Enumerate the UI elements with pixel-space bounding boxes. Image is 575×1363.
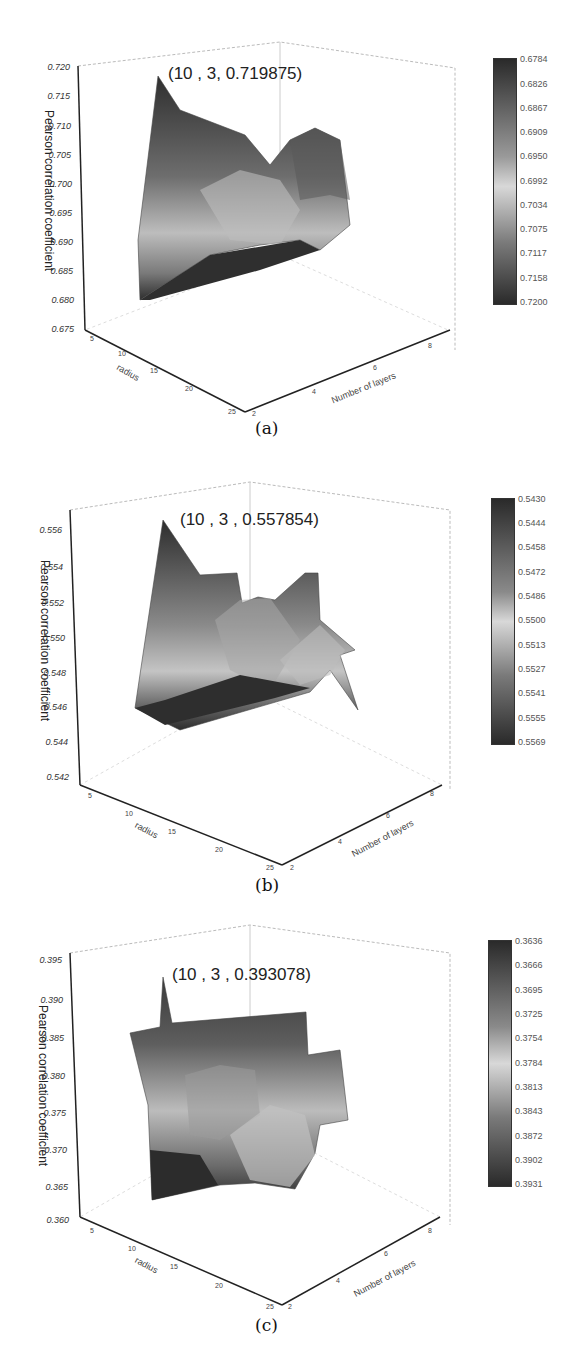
colorbar-tick: 0.3902 [515, 1155, 543, 1165]
colorbar-tick: 0.3813 [515, 1082, 543, 1092]
x-tick: 20 [215, 846, 223, 853]
z-tick: 0.380 [25, 1071, 65, 1081]
x-tick: 25 [228, 408, 236, 415]
colorbar-tick: 0.5541 [518, 688, 546, 698]
colorbar-tick: 0.7075 [520, 224, 548, 234]
colorbar-tick: 0.6992 [520, 176, 548, 186]
z-tick: 0.550 [25, 633, 65, 643]
colorbar-a [493, 58, 517, 305]
z-tick: 0.365 [28, 1182, 68, 1192]
panel-caption-b: (b) [255, 875, 279, 895]
x-tick: 5 [88, 792, 92, 799]
panel-caption-c: (c) [255, 1315, 278, 1335]
colorbar-tick: 0.6867 [520, 103, 548, 113]
colorbar-tick: 0.5569 [518, 737, 546, 747]
colorbar-tick: 0.7200 [520, 297, 548, 307]
z-tick: 0.710 [31, 121, 71, 131]
z-tick: 0.680 [34, 295, 74, 305]
x-tick: 10 [118, 350, 126, 357]
colorbar-tick: 0.3784 [515, 1058, 543, 1068]
y-tick: 4 [312, 388, 316, 395]
panel-caption-a: (a) [255, 418, 278, 438]
y-tick: 2 [290, 864, 294, 871]
z-tick: 0.395 [22, 955, 62, 965]
z-axis-label-a: Pearson correlation coefficient [42, 110, 56, 271]
z-tick: 0.390 [23, 995, 63, 1005]
x-tick: 5 [90, 1227, 94, 1234]
colorbar-tick: 0.3872 [515, 1131, 543, 1141]
colorbar-tick: 0.5472 [518, 567, 546, 577]
x-tick: 15 [150, 367, 158, 374]
z-tick: 0.552 [24, 598, 64, 608]
colorbar-tick: 0.5444 [518, 518, 546, 528]
z-tick: 0.715 [30, 91, 70, 101]
z-tick: 0.685 [33, 266, 73, 276]
peak-annotation-a: (10 , 3, 0.719875) [168, 64, 302, 84]
y-tick: 6 [373, 364, 377, 371]
colorbar-tick: 0.5527 [518, 664, 546, 674]
colorbar-tick: 0.7158 [520, 273, 548, 283]
colorbar-c [488, 940, 512, 1187]
y-tick: 2 [288, 1303, 292, 1310]
y-tick: 8 [428, 342, 432, 349]
z-tick: 0.556 [22, 525, 62, 535]
colorbar-tick: 0.6826 [520, 79, 548, 89]
chart-panel-a: (10 , 3, 0.719875) Pearson correlation c… [0, 0, 575, 440]
x-tick: 15 [168, 828, 176, 835]
y-tick: 6 [384, 1250, 388, 1257]
y-tick: 8 [428, 1227, 432, 1234]
colorbar-tick: 0.5486 [518, 591, 546, 601]
y-tick: 4 [338, 838, 342, 845]
z-tick: 0.548 [26, 668, 66, 678]
z-tick: 0.375 [26, 1108, 66, 1118]
colorbar-tick: 0.3931 [515, 1179, 543, 1189]
colorbar-tick: 0.3725 [515, 1009, 543, 1019]
y-tick: 4 [336, 1277, 340, 1284]
colorbar-tick: 0.5500 [518, 615, 546, 625]
colorbar-tick: 0.3695 [515, 985, 543, 995]
x-tick: 5 [90, 335, 94, 342]
colorbar-tick: 0.5555 [518, 713, 546, 723]
z-tick: 0.370 [27, 1145, 67, 1155]
x-tick: 20 [185, 385, 193, 392]
colorbar-tick: 0.7117 [520, 248, 547, 258]
x-tick: 10 [128, 1245, 136, 1252]
colorbar-tick: 0.5513 [518, 640, 546, 650]
colorbar-tick: 0.5430 [518, 494, 546, 504]
z-axis-label-c: Pearson correlation coefficient [36, 1005, 50, 1166]
colorbar-tick: 0.6784 [520, 54, 548, 64]
x-tick: 25 [266, 1303, 274, 1310]
colorbar-tick: 0.7034 [520, 200, 548, 210]
z-tick: 0.695 [32, 208, 72, 218]
colorbar-tick: 0.5458 [518, 542, 546, 552]
colorbar-tick: 0.3843 [515, 1106, 543, 1116]
y-tick: 6 [386, 812, 390, 819]
y-tick: 8 [430, 790, 434, 797]
z-tick: 0.690 [33, 237, 73, 247]
x-tick: 20 [215, 1282, 223, 1289]
z-tick: 0.675 [34, 324, 74, 334]
colorbar-tick: 0.3666 [515, 960, 543, 970]
colorbar-b [491, 498, 515, 745]
z-tick: 0.542 [29, 772, 69, 782]
peak-annotation-b: (10 , 3 , 0.557854) [180, 510, 319, 530]
colorbar-tick: 0.3754 [515, 1033, 543, 1043]
z-tick: 0.554 [23, 562, 63, 572]
z-tick: 0.385 [24, 1033, 64, 1043]
z-tick: 0.544 [28, 737, 68, 747]
z-tick: 0.720 [30, 62, 70, 72]
z-tick: 0.700 [32, 179, 72, 189]
chart-panel-c: (10 , 3 , 0.393078) Pearson correlation … [0, 905, 575, 1363]
colorbar-tick: 0.3636 [515, 936, 543, 946]
x-tick: 25 [266, 864, 274, 871]
z-tick: 0.546 [27, 702, 67, 712]
x-tick: 10 [125, 810, 133, 817]
z-tick: 0.705 [31, 150, 71, 160]
chart-panel-b: (10 , 3 , 0.557854) Pearson correlation … [0, 460, 575, 900]
x-tick: 15 [170, 1263, 178, 1270]
colorbar-tick: 0.6909 [520, 127, 548, 137]
z-tick: 0.360 [29, 1215, 69, 1225]
peak-annotation-c: (10 , 3 , 0.393078) [172, 965, 311, 985]
colorbar-tick: 0.6950 [520, 151, 548, 161]
y-tick: 2 [252, 410, 256, 417]
